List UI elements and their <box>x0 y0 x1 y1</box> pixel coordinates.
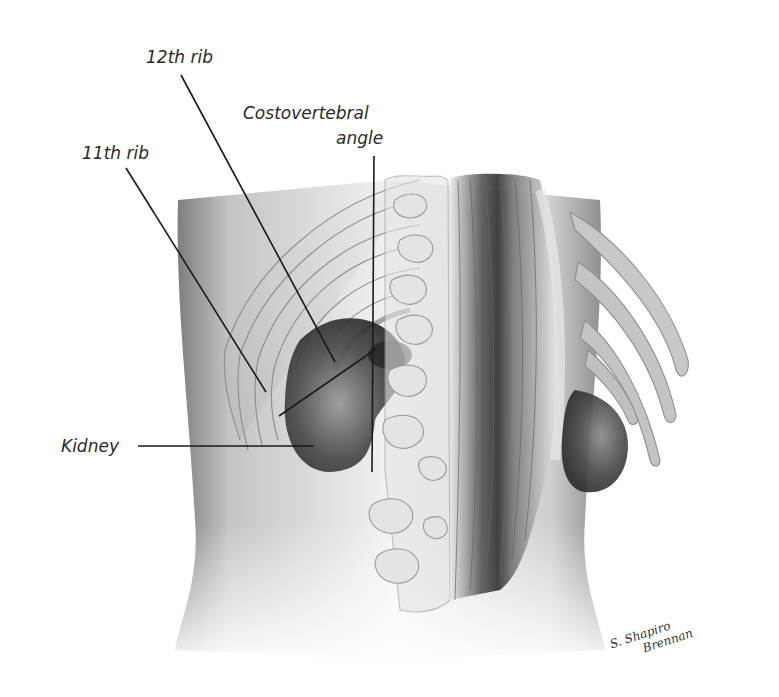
label-12th-rib: 12th rib <box>146 47 213 67</box>
label-angle: angle <box>336 128 383 148</box>
label-costovertebral: Costovertebral <box>243 103 369 123</box>
label-kidney: Kidney <box>61 436 119 456</box>
right-kidney <box>562 390 628 492</box>
label-11th-rib: 11th rib <box>82 143 149 163</box>
anatomy-illustration <box>0 0 779 697</box>
